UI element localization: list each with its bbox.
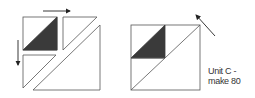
caption-line-2: make 80 [208,76,240,86]
caption-line-1: Unit C - [208,66,240,76]
left-figure [18,11,100,90]
unit-caption: Unit C - make 80 [208,66,240,86]
right-figure [131,15,215,90]
